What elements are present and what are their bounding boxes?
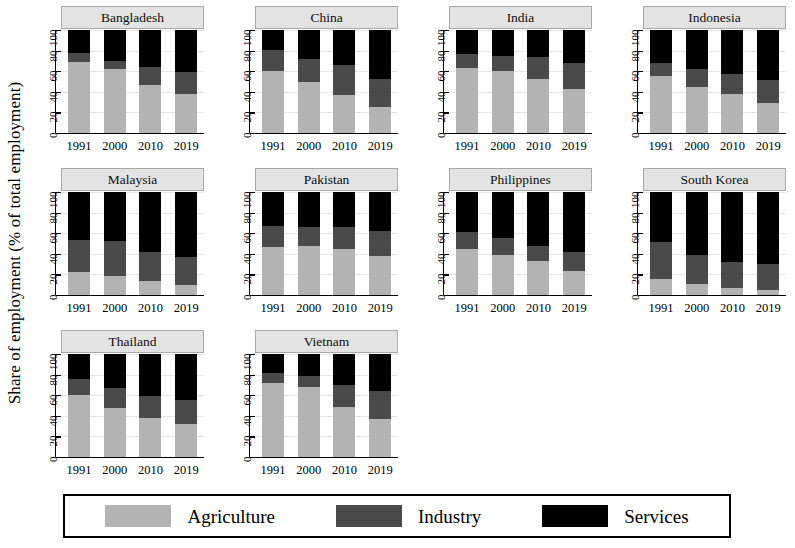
bar-segment-services <box>298 192 320 227</box>
bar-segment-industry <box>369 391 391 419</box>
panel-south-korea: South Korea0204060801001991200020102019 <box>612 166 790 328</box>
bar-segment-agriculture <box>369 256 391 295</box>
panel-row: Bangladesh0204060801001991200020102019Ch… <box>30 4 792 166</box>
x-tick-label: 1991 <box>449 299 485 317</box>
legend-swatch-services <box>542 505 608 527</box>
panel-title: China <box>310 11 342 25</box>
bar-segment-services <box>104 354 126 388</box>
bar-segment-services <box>456 30 478 54</box>
bar-segment-agriculture <box>68 395 90 457</box>
bar-segment-agriculture <box>175 94 197 133</box>
x-tick-label: 2010 <box>327 137 363 155</box>
bar-slot <box>679 30 715 133</box>
bar-segment-services <box>175 192 197 257</box>
bar-slot <box>715 30 751 133</box>
bar-group <box>61 354 204 457</box>
panel-strip: Malaysia <box>61 168 204 191</box>
bar-segment-industry <box>650 242 672 278</box>
stacked-bar <box>492 192 514 295</box>
bar-segment-industry <box>104 241 126 276</box>
bar-slot <box>485 192 521 295</box>
bar-segment-agriculture <box>369 419 391 457</box>
legend-label: Agriculture <box>187 507 275 526</box>
x-tick-label: 2010 <box>521 299 557 317</box>
bar-segment-services <box>175 354 197 400</box>
bar-segment-agriculture <box>650 279 672 295</box>
stacked-bar <box>757 192 779 295</box>
bar-segment-industry <box>369 231 391 256</box>
bar-segment-industry <box>262 226 284 247</box>
bar-segment-services <box>298 30 320 59</box>
bar-slot <box>750 30 786 133</box>
bar-segment-services <box>456 192 478 232</box>
bar-slot <box>643 192 679 295</box>
stacked-bar <box>563 192 585 295</box>
x-tick-label: 2000 <box>679 137 715 155</box>
x-tick-label: 2000 <box>97 299 133 317</box>
x-tick-label: 2019 <box>556 137 592 155</box>
panel-row: Malaysia0204060801001991200020102019Paki… <box>30 166 792 328</box>
stacked-bar <box>492 30 514 133</box>
bar-segment-agriculture <box>333 407 355 457</box>
bar-segment-agriculture <box>456 249 478 295</box>
bar-segment-agriculture <box>721 94 743 133</box>
bar-segment-industry <box>757 264 779 290</box>
bar-segment-services <box>527 30 549 57</box>
panel-title: Indonesia <box>688 11 740 25</box>
bar-segment-industry <box>262 373 284 383</box>
legend-label: Services <box>624 507 688 526</box>
panel-strip: Bangladesh <box>61 6 204 29</box>
employment-share-faceted-bar-chart: Share of employment (% of total employme… <box>0 0 795 548</box>
plot-area <box>61 30 204 133</box>
panel-strip: Philippines <box>449 168 592 191</box>
x-axis <box>449 133 592 134</box>
bar-segment-agriculture <box>104 408 126 457</box>
bar-group <box>643 192 786 295</box>
stacked-bar <box>104 354 126 457</box>
bar-segment-services <box>139 192 161 252</box>
bar-segment-industry <box>686 69 708 87</box>
bar-segment-services <box>650 192 672 242</box>
x-tick-label: 2000 <box>97 461 133 479</box>
panel-title: Bangladesh <box>101 11 164 25</box>
bar-slot <box>485 30 521 133</box>
bar-segment-industry <box>456 54 478 68</box>
bar-segment-agriculture <box>650 76 672 133</box>
x-tick-label: 1991 <box>61 299 97 317</box>
bar-segment-agriculture <box>527 261 549 295</box>
bar-segment-agriculture <box>333 95 355 133</box>
bar-slot <box>556 192 592 295</box>
bar-segment-services <box>686 30 708 69</box>
panel-title: South Korea <box>681 173 749 187</box>
legend-item-agriculture: Agriculture <box>105 505 275 527</box>
x-tick-labels: 1991200020102019 <box>61 137 204 155</box>
bar-slot <box>133 30 169 133</box>
panel-vietnam: Vietnam0204060801001991200020102019 <box>224 328 402 490</box>
bar-segment-agriculture <box>262 71 284 133</box>
plot-area <box>61 354 204 457</box>
bar-slot <box>168 192 204 295</box>
bar-segment-industry <box>139 67 161 85</box>
x-tick-labels: 1991200020102019 <box>643 299 786 317</box>
stacked-bar <box>650 192 672 295</box>
panel-title: Pakistan <box>304 173 350 187</box>
stacked-bar <box>369 354 391 457</box>
bar-segment-industry <box>333 65 355 95</box>
bar-segment-industry <box>175 257 197 285</box>
x-tick-label: 2010 <box>715 137 751 155</box>
stacked-bar <box>757 30 779 133</box>
bar-segment-services <box>333 192 355 227</box>
plot-area <box>643 192 786 295</box>
x-tick-label: 2010 <box>521 137 557 155</box>
x-tick-label: 2000 <box>97 137 133 155</box>
stacked-bar <box>686 30 708 133</box>
bar-slot <box>521 30 557 133</box>
stacked-bar <box>369 30 391 133</box>
panel-philippines: Philippines0204060801001991200020102019 <box>418 166 596 328</box>
stacked-bar <box>298 192 320 295</box>
bar-slot <box>327 30 363 133</box>
bar-segment-industry <box>650 63 672 76</box>
bar-segment-services <box>262 30 284 50</box>
bar-segment-agriculture <box>298 246 320 295</box>
x-tick-label: 2010 <box>133 299 169 317</box>
